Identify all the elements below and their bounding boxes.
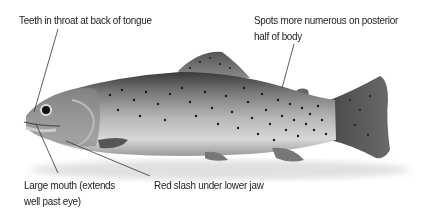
trout-diagram: Teeth in throat at back of tongue Spots … — [0, 0, 421, 220]
label-spots-line1: Spots more numerous on posterior — [254, 13, 398, 27]
label-red-slash: Red slash under lower jaw — [154, 178, 264, 192]
label-mouth-line2: well past eye) — [24, 194, 81, 208]
spots-leader-line — [282, 44, 294, 88]
fish-shadow — [30, 160, 410, 180]
label-mouth-line1: Large mouth (extends — [24, 178, 115, 192]
caudal-fin — [330, 76, 390, 158]
label-teeth: Teeth in throat at back of tongue — [19, 13, 152, 27]
eye — [42, 106, 50, 114]
anal-fin — [272, 148, 304, 162]
label-spots-line2: half of body — [254, 29, 302, 43]
